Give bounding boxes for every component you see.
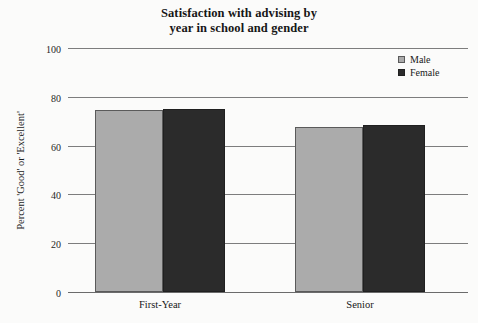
y-axis-title-text: Percent 'Good' or 'Excellent' xyxy=(15,111,26,230)
bar-senior-female xyxy=(363,125,425,292)
chart-legend: MaleFemale xyxy=(398,53,439,79)
chart-title-line-2: year in school and gender xyxy=(0,21,478,36)
chart-title-line-1: Satisfaction with advising by xyxy=(0,6,478,21)
y-axis-title: Percent 'Good' or 'Excellent' xyxy=(12,48,28,292)
y-tick-label-0: 0 xyxy=(56,288,61,299)
legend-item-male: Male xyxy=(398,53,439,66)
plot-area: 020406080100 xyxy=(68,48,468,292)
y-tick-label-80: 80 xyxy=(51,92,61,103)
gridline-0: 0 xyxy=(68,292,468,293)
gridline-100: 100 xyxy=(68,48,468,49)
bar-senior-male xyxy=(295,127,363,292)
legend-swatch-female xyxy=(398,69,405,76)
legend-label-male: Male xyxy=(410,53,431,66)
gridline-80: 80 xyxy=(68,97,468,98)
x-category-label-first-year: First-Year xyxy=(139,299,181,310)
legend-label-female: Female xyxy=(410,66,439,79)
bar-first-year-male xyxy=(95,110,163,292)
bar-first-year-female xyxy=(163,109,225,292)
y-tick-label-40: 40 xyxy=(51,190,61,201)
bar-chart-figure: Satisfaction with advising by year in sc… xyxy=(0,0,478,323)
y-tick-label-20: 20 xyxy=(51,239,61,250)
y-tick-label-60: 60 xyxy=(51,141,61,152)
legend-item-female: Female xyxy=(398,66,439,79)
y-tick-label-100: 100 xyxy=(46,44,61,55)
chart-title: Satisfaction with advising by year in sc… xyxy=(0,6,478,36)
legend-swatch-male xyxy=(398,56,405,63)
x-category-label-senior: Senior xyxy=(346,299,373,310)
